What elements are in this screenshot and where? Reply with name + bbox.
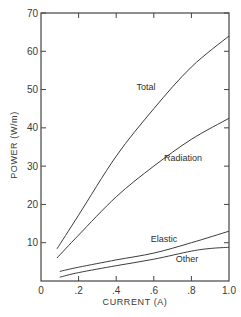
series-label-other: Other (176, 254, 199, 264)
x-tick-label: .6 (150, 285, 159, 296)
x-tick-label: 1.0 (222, 285, 236, 296)
series-label-elastic: Elastic (151, 234, 178, 244)
x-tick-label: 0 (38, 285, 44, 296)
y-tick-label: 30 (27, 161, 39, 172)
series-line-radiation (57, 118, 229, 258)
plot-frame (41, 13, 229, 281)
y-axis-title: POWER (W/m) (9, 111, 19, 179)
power-vs-current-chart: 10203040506070 0.2.4.6.81.0 TotalRadiati… (0, 0, 241, 317)
y-tick-label: 50 (27, 84, 39, 95)
series-line-other (60, 247, 229, 277)
y-tick-label: 40 (27, 122, 39, 133)
y-axis-ticks: 10203040506070 (27, 8, 229, 249)
x-axis-title: CURRENT (A) (103, 297, 168, 307)
x-tick-label: .4 (112, 285, 121, 296)
y-tick-label: 10 (27, 237, 39, 248)
x-tick-label: .2 (74, 285, 83, 296)
series-line-elastic (60, 231, 229, 271)
y-tick-label: 60 (27, 46, 39, 57)
y-tick-label: 70 (27, 8, 39, 19)
series-curves (57, 36, 229, 277)
series-line-total (57, 36, 229, 249)
y-tick-label: 20 (27, 199, 39, 210)
series-label-radiation: Radiation (164, 153, 202, 163)
x-axis-ticks: 0.2.4.6.81.0 (38, 13, 236, 296)
x-tick-label: .8 (187, 285, 196, 296)
series-label-total: Total (136, 82, 155, 92)
series-labels: TotalRadiationElasticOther (136, 82, 202, 264)
